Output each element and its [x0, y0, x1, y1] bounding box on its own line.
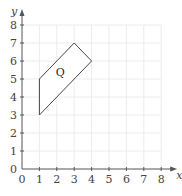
x-tick-label: 7	[140, 173, 147, 186]
coordinate-grid-chart: xy 012345678012345678 Q	[0, 0, 182, 196]
y-tick-label: 1	[10, 145, 17, 158]
axes: xy	[10, 5, 182, 182]
y-tick-label: 8	[10, 19, 17, 32]
x-tick-label: 3	[71, 173, 78, 186]
y-tick-label: 2	[10, 127, 17, 140]
y-tick-label: 5	[10, 73, 17, 86]
x-tick-label: 6	[123, 173, 130, 186]
y-tick-label: 4	[10, 91, 17, 104]
y-tick-label: 6	[10, 55, 17, 68]
x-tick-label: 1	[36, 173, 43, 186]
tick-marks: 012345678012345678	[10, 19, 165, 186]
y-tick-label: 3	[10, 109, 17, 122]
x-tick-label: 5	[106, 173, 113, 186]
y-tick-label: 7	[10, 37, 17, 50]
x-axis-label: x	[176, 169, 182, 182]
shape-label: Q	[56, 66, 65, 79]
x-tick-label: 2	[53, 173, 60, 186]
x-tick-label: 8	[158, 173, 165, 186]
x-tick-label: 0	[19, 173, 26, 186]
y-axis-arrow-icon	[20, 9, 25, 16]
x-tick-label: 4	[88, 173, 95, 186]
y-axis-label: y	[10, 5, 18, 18]
y-tick-label: 0	[10, 163, 17, 176]
